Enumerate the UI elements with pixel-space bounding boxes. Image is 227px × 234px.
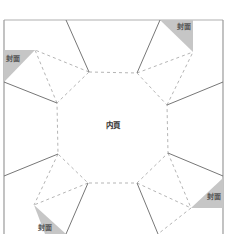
cover-label-top-right: 封面 xyxy=(177,22,191,31)
cover-label-top-left: 封面 xyxy=(6,54,20,63)
booklet-fold-diagram: 内頁 封面 封面 封面 封面 xyxy=(0,0,227,234)
cover-label-bottom-left: 封面 xyxy=(38,223,52,232)
cover-label-bottom-right: 封面 xyxy=(207,192,221,201)
inner-pages-label: 内頁 xyxy=(106,120,121,130)
dashed-fold-lines xyxy=(34,50,193,234)
